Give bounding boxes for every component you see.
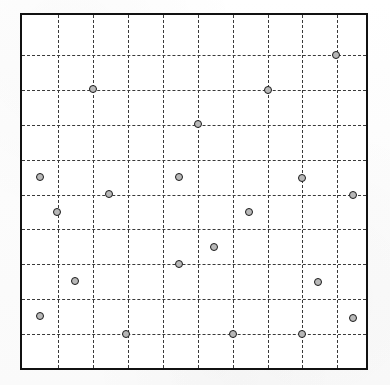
scatter-point (298, 174, 306, 182)
scatter-point (245, 208, 253, 216)
scatter-point (105, 190, 113, 198)
scatter-point (349, 191, 357, 199)
scatter-point (194, 120, 202, 128)
scatter-point (332, 51, 340, 59)
scatter-point (314, 278, 322, 286)
scatter-points-layer (22, 15, 366, 368)
scatter-point (36, 312, 44, 320)
scatter-point (349, 314, 357, 322)
scatter-point (36, 173, 44, 181)
scatter-point (53, 208, 61, 216)
scatter-point (229, 330, 237, 338)
scatter-point (264, 86, 272, 94)
scatter-plot-figure (0, 0, 390, 385)
plot-frame-border (20, 13, 368, 370)
scatter-point (122, 330, 130, 338)
scatter-point (175, 173, 183, 181)
plot-area (22, 15, 366, 368)
scatter-point (71, 277, 79, 285)
scatter-point (175, 260, 183, 268)
scatter-point (298, 330, 306, 338)
scatter-point (89, 85, 97, 93)
scatter-point (210, 243, 218, 251)
